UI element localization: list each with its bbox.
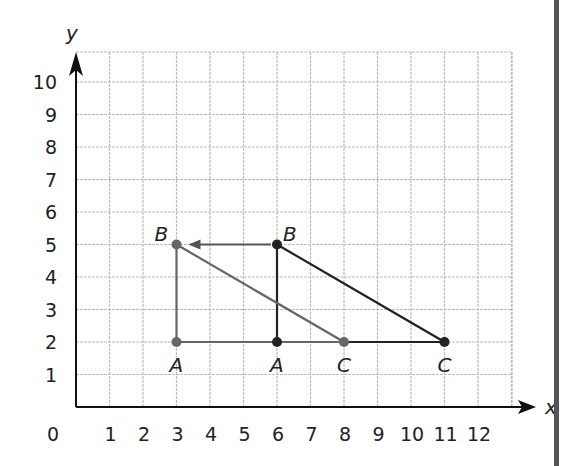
x-tick-label: 2: [138, 423, 150, 445]
y-tick-label: 4: [45, 266, 57, 288]
vertex-point: [339, 337, 349, 347]
y-tick-label: 2: [45, 331, 57, 353]
y-axis-label: y: [65, 21, 79, 45]
vertex-point: [172, 337, 182, 347]
page-border-bar: [554, 0, 559, 466]
point-label-a: A: [268, 353, 284, 377]
x-tick-label: 0: [47, 423, 59, 445]
tick-labels: 012345678910111212345678910: [33, 71, 491, 445]
point-label-b: B: [283, 222, 297, 246]
triangle-outline: [177, 245, 345, 343]
x-tick-label: 7: [306, 423, 318, 445]
x-tick-label: 1: [105, 423, 117, 445]
point-label-b: B: [155, 222, 169, 246]
y-tick-label: 8: [45, 136, 57, 158]
y-tick-label: 5: [45, 234, 57, 256]
vertex-point: [172, 240, 182, 250]
x-tick-label: 11: [434, 423, 458, 445]
y-tick-label: 1: [45, 364, 57, 386]
y-tick-label: 9: [45, 104, 57, 126]
x-tick-label: 3: [172, 423, 184, 445]
point-label-a: A: [168, 353, 184, 377]
vertex-point: [272, 240, 282, 250]
x-tick-label: 8: [339, 423, 351, 445]
y-tick-label: 7: [45, 169, 57, 191]
x-tick-label: 6: [272, 423, 284, 445]
y-tick-label: 6: [45, 201, 57, 223]
y-tick-label: 3: [45, 299, 57, 321]
translation-arrow-head-icon: [189, 240, 201, 250]
x-tick-label: 12: [467, 423, 491, 445]
point-label-c: C: [438, 353, 452, 377]
triangle-outline: [277, 245, 445, 343]
x-tick-label: 10: [400, 423, 424, 445]
y-tick-label: 10: [33, 71, 57, 93]
x-tick-label: 4: [205, 423, 217, 445]
coordinate-grid-diagram: xy 012345678910111212345678910 ABCABC: [0, 0, 570, 466]
vertex-point: [272, 337, 282, 347]
point-label-c: C: [337, 353, 351, 377]
x-tick-label: 9: [373, 423, 385, 445]
x-tick-label: 5: [239, 423, 251, 445]
vertex-point: [440, 337, 450, 347]
